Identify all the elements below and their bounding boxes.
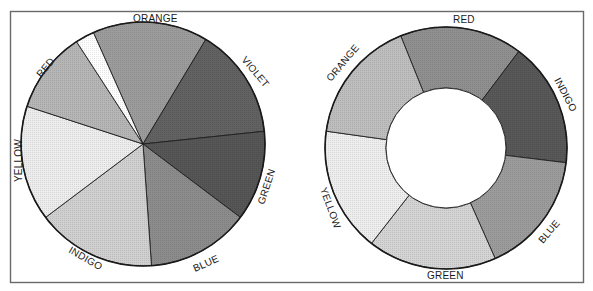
label-left-blue: BLUE [191,253,220,274]
label-right-green: GREEN [427,270,464,281]
label-right-red: RED [453,14,475,25]
label-left-orange: ORANGE [133,13,178,24]
label-left-yellow: YELLOW [13,139,24,182]
pie-chart-left [21,22,265,266]
donut-chart-right [325,27,567,269]
donut-hole [386,88,506,208]
chart-canvas: ORANGE VIOLET GREEN BLUE INDIGO YELLOW R… [0,0,593,291]
